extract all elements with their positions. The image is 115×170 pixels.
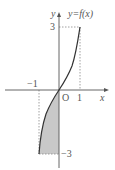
- y-tick-3: 3: [50, 21, 55, 32]
- origin-label: O: [62, 92, 69, 103]
- x-tick-neg1: −1: [27, 78, 38, 89]
- x-tick-1: 1: [77, 92, 82, 103]
- y-tick-neg3: −3: [61, 148, 72, 159]
- function-graph: y y=f(x) 3 −1 O 1 x −3: [0, 0, 115, 170]
- x-axis-label: x: [99, 92, 105, 103]
- y-axis-label: y: [50, 8, 56, 19]
- y-axis-arrow-icon: [57, 12, 61, 17]
- curve-label: y=f(x): [67, 8, 94, 20]
- x-axis-arrow-icon: [104, 88, 109, 92]
- shaded-area: [39, 90, 59, 154]
